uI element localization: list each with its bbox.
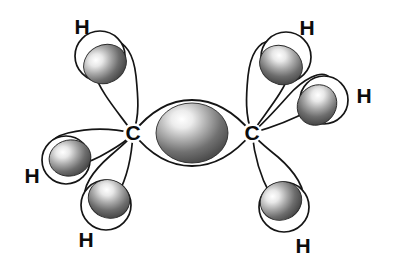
hydrogen-right-label: H: [356, 84, 371, 107]
sigma-bond-electron-cloud: [156, 103, 228, 163]
hydrogen-top-left-label: H: [74, 15, 89, 38]
hydrogen-bottom-right-label: H: [295, 234, 310, 257]
carbon-left-label: C: [125, 121, 140, 144]
orbital-diagram-figure: C C H H H H H H: [0, 0, 395, 271]
molecule-diagram-canvas: C C H H H H H H: [0, 0, 395, 271]
hydrogen-top-right-label: H: [299, 16, 314, 39]
carbon-right-label: C: [244, 121, 259, 144]
hydrogen-bottom-left-label: H: [78, 228, 93, 251]
hydrogen-left-label: H: [24, 164, 39, 187]
